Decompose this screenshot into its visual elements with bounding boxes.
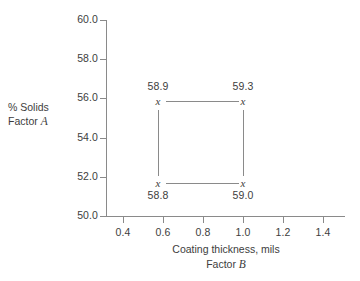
y-tick-label-50: 50.0 bbox=[54, 209, 98, 222]
y-tick-52 bbox=[100, 177, 106, 178]
y-axis-factor-letter: A bbox=[41, 115, 48, 127]
x-tick-label-0.4: 0.4 bbox=[103, 226, 143, 239]
y-tick-label-52: 52.0 bbox=[54, 170, 98, 183]
data-marker-upper-left: x bbox=[151, 94, 165, 108]
x-tick-1.0 bbox=[243, 217, 244, 223]
y-axis-title-main: % Solids bbox=[8, 100, 70, 114]
x-axis-title: Coating thickness, mils Factor B bbox=[106, 242, 346, 272]
y-tick-label-54: 54.0 bbox=[54, 131, 98, 144]
data-label-lower-left: 58.8 bbox=[135, 189, 181, 202]
x-tick-1.4 bbox=[323, 217, 324, 223]
data-label-upper-right: 59.3 bbox=[220, 80, 266, 93]
y-tick-60 bbox=[100, 20, 106, 21]
y-axis-line bbox=[106, 20, 107, 217]
y-tick-label-58: 58.0 bbox=[54, 52, 98, 65]
y-tick-58 bbox=[100, 59, 106, 60]
y-tick-label-60: 60.0 bbox=[54, 13, 98, 26]
data-label-lower-right: 59.0 bbox=[220, 189, 266, 202]
x-tick-label-0.8: 0.8 bbox=[183, 226, 223, 239]
y-tick-50 bbox=[100, 216, 106, 217]
data-label-upper-left: 58.9 bbox=[135, 80, 181, 93]
data-marker-lower-right: x bbox=[236, 176, 250, 190]
x-tick-0.6 bbox=[163, 217, 164, 223]
data-marker-upper-right: x bbox=[236, 94, 250, 108]
y-tick-54 bbox=[100, 138, 106, 139]
series-line-upper bbox=[166, 101, 239, 102]
interaction-plot-figure: 60.0 58.0 56.0 54.0 52.0 50.0 0.4 0.6 0.… bbox=[0, 0, 360, 281]
y-axis-title-factor: Factor A bbox=[8, 114, 70, 128]
x-axis-title-main: Coating thickness, mils bbox=[106, 242, 346, 257]
x-tick-label-1.4: 1.4 bbox=[303, 226, 343, 239]
x-tick-1.2 bbox=[283, 217, 284, 223]
connector-line-left bbox=[158, 110, 159, 176]
y-axis-title: % Solids Factor A bbox=[8, 100, 70, 128]
series-line-lower bbox=[166, 183, 239, 184]
x-tick-label-1.2: 1.2 bbox=[263, 226, 303, 239]
x-tick-0.8 bbox=[203, 217, 204, 223]
x-axis-factor-letter: B bbox=[239, 258, 246, 270]
x-tick-label-0.6: 0.6 bbox=[143, 226, 183, 239]
connector-line-right bbox=[243, 110, 244, 176]
x-axis-line bbox=[106, 216, 345, 217]
x-tick-label-1.0: 1.0 bbox=[223, 226, 263, 239]
x-axis-title-factor: Factor B bbox=[106, 257, 346, 272]
x-tick-0.4 bbox=[123, 217, 124, 223]
data-marker-lower-left: x bbox=[151, 176, 165, 190]
y-tick-56 bbox=[100, 98, 106, 99]
